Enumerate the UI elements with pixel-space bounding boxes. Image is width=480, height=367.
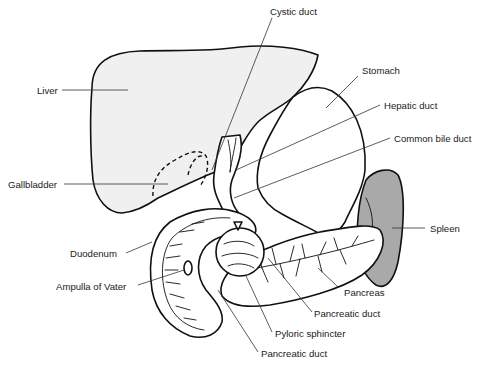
label-stomach: Stomach: [362, 65, 400, 76]
anatomy-diagram: Cystic duct Liver Stomach Hepatic duct C…: [0, 0, 480, 367]
label-pancreatic-duct-bottom: Pancreatic duct: [261, 348, 327, 359]
label-hepatic-duct: Hepatic duct: [384, 100, 438, 111]
label-pancreatic-duct-right: Pancreatic duct: [314, 308, 380, 319]
label-ampulla-of-vater: Ampulla of Vater: [56, 281, 127, 292]
label-gallbladder: Gallbladder: [8, 179, 58, 190]
label-duodenum: Duodenum: [70, 248, 117, 259]
label-common-bile-duct: Common bile duct: [394, 133, 472, 144]
label-liver: Liver: [37, 85, 59, 96]
label-spleen: Spleen: [430, 223, 460, 234]
ampulla-shape: [184, 261, 192, 275]
label-pancreas: Pancreas: [344, 287, 385, 298]
label-pyloric-sphincter: Pyloric sphincter: [275, 328, 346, 339]
label-cystic-duct: Cystic duct: [270, 6, 317, 17]
leader-duodenum: [126, 242, 152, 253]
pyloric-sphincter-shape: [216, 228, 264, 276]
